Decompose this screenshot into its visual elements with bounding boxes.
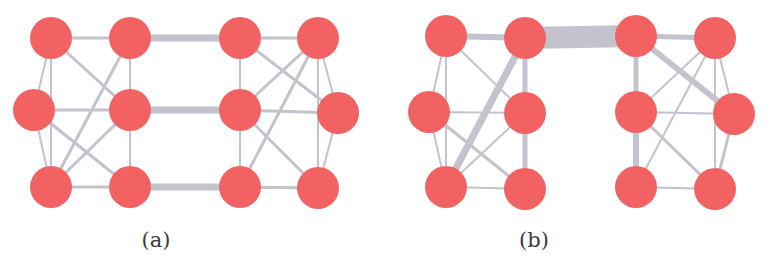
node-c1 [30, 166, 72, 208]
node-c3 [615, 166, 657, 208]
node-c3 [219, 166, 261, 208]
edge-layer-b [429, 36, 734, 189]
node-a2 [504, 17, 546, 59]
node-a4 [694, 17, 736, 59]
node-c4 [694, 168, 736, 210]
graph-figure [0, 0, 772, 267]
node-a4 [297, 17, 339, 59]
node-c2 [109, 166, 151, 208]
graph-panel-a [13, 17, 359, 209]
node-b4 [713, 93, 755, 135]
node-a3 [615, 15, 657, 57]
node-b1 [13, 89, 55, 131]
edge-layer-a [34, 38, 338, 188]
graph-panel-b [408, 15, 755, 210]
node-c1 [425, 166, 467, 208]
node-a1 [30, 17, 72, 59]
node-a2 [109, 17, 151, 59]
node-b3 [219, 89, 261, 131]
node-b2 [109, 89, 151, 131]
node-c2 [504, 168, 546, 210]
node-b2 [504, 92, 546, 134]
caption-b: (b) [504, 228, 564, 252]
node-b4 [317, 92, 359, 134]
node-a3 [219, 17, 261, 59]
node-b3 [615, 91, 657, 133]
node-b1 [408, 91, 450, 133]
caption-a: (a) [126, 228, 186, 252]
node-a1 [425, 15, 467, 57]
node-c4 [297, 167, 339, 209]
